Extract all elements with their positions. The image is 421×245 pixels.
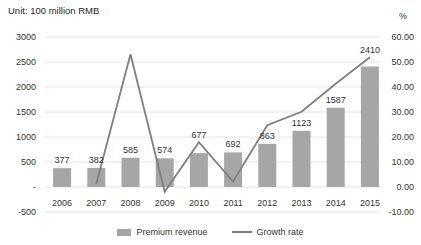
bar-value-label: 585 bbox=[123, 145, 138, 155]
combo-chart-canvas: 300060.00250050.00200040.00150030.001000… bbox=[0, 0, 421, 245]
bar-2012 bbox=[258, 144, 276, 187]
bar-2010 bbox=[190, 153, 208, 187]
bar-value-label: 863 bbox=[260, 131, 275, 141]
bar-value-label: 1123 bbox=[292, 118, 311, 128]
premium-revenue-chart: Unit: 100 million RMB % 300060.00250050.… bbox=[0, 0, 421, 245]
x-axis-label: 2008 bbox=[120, 198, 140, 208]
bar-value-label: 574 bbox=[157, 145, 172, 155]
bar-2008 bbox=[122, 158, 140, 187]
x-axis-label: 2012 bbox=[257, 198, 277, 208]
bar-2006 bbox=[53, 168, 71, 187]
x-axis-label: 2011 bbox=[223, 198, 242, 208]
x-axis-label: 2013 bbox=[291, 198, 311, 208]
bar-value-label: 677 bbox=[191, 130, 206, 140]
y-axis-tick-left: 3000 bbox=[16, 32, 36, 42]
bar-value-label: 692 bbox=[226, 139, 241, 149]
y-axis-tick-left: 2000 bbox=[16, 82, 36, 92]
bar-value-label: 2410 bbox=[360, 45, 380, 55]
y-axis-tick-right: 20.00 bbox=[391, 132, 414, 142]
y-axis-tick-right: 0.00 bbox=[396, 182, 414, 192]
bar-value-label: 377 bbox=[55, 155, 70, 165]
bar-value-label: 1587 bbox=[326, 95, 346, 105]
bar-2007 bbox=[87, 168, 105, 187]
bar-2013 bbox=[293, 131, 311, 187]
y-axis-tick-left: 2500 bbox=[16, 57, 36, 67]
x-axis-label: 2007 bbox=[86, 198, 106, 208]
legend-label-premium-revenue: Premium revenue bbox=[136, 227, 207, 237]
bar-2015 bbox=[361, 67, 379, 188]
y-axis-tick-left: 500 bbox=[21, 157, 36, 167]
x-axis-label: 2006 bbox=[52, 198, 72, 208]
x-axis-label: 2009 bbox=[155, 198, 175, 208]
legend-item-premium-revenue: Premium revenue bbox=[117, 227, 207, 237]
premium-revenue-swatch-icon bbox=[117, 229, 131, 236]
y-axis-tick-right: 10.00 bbox=[391, 157, 414, 167]
y-axis-tick-left: - bbox=[33, 182, 36, 192]
y-axis-tick-left: 1500 bbox=[16, 107, 36, 117]
bar-value-label: 382 bbox=[89, 155, 104, 165]
x-axis-label: 2015 bbox=[360, 198, 380, 208]
y-axis-tick-right: -10.00 bbox=[388, 207, 414, 217]
y-axis-tick-right: 30.00 bbox=[391, 107, 414, 117]
y-axis-tick-right: 50.00 bbox=[391, 57, 414, 67]
legend-label-growth-rate: Growth rate bbox=[257, 227, 304, 237]
y-axis-tick-right: 40.00 bbox=[391, 82, 414, 92]
bar-2014 bbox=[327, 108, 345, 187]
x-axis-label: 2010 bbox=[189, 198, 209, 208]
y-axis-tick-right: 60.00 bbox=[391, 32, 414, 42]
y-axis-tick-left: 1000 bbox=[16, 132, 36, 142]
x-axis-label: 2014 bbox=[326, 198, 346, 208]
y-axis-tick-left: -500 bbox=[18, 207, 36, 217]
growth-rate-swatch-icon bbox=[232, 231, 252, 233]
legend-item-growth-rate: Growth rate bbox=[232, 227, 304, 237]
chart-legend: Premium revenue Growth rate bbox=[0, 224, 421, 240]
